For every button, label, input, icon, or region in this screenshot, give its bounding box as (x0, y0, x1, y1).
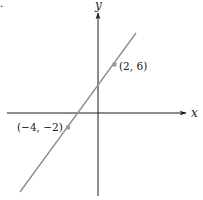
point-2-6-label: (2, 6) (119, 60, 147, 72)
chart-svg: . x y (2, 6) (−4, −2) (0, 0, 203, 200)
y-axis-label: y (94, 0, 102, 12)
point-2-6 (113, 63, 117, 67)
x-axis-label: x (191, 106, 198, 120)
point-neg4-neg2 (66, 126, 70, 130)
corner-mark: . (0, 0, 3, 9)
point-neg4-neg2-label: (−4, −2) (17, 121, 63, 133)
coordinate-plane-figure: . x y (2, 6) (−4, −2) (0, 0, 203, 200)
